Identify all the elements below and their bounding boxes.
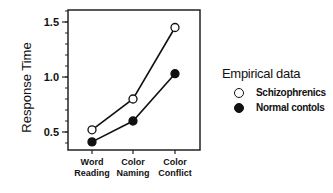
open-circle-marker: [129, 95, 137, 103]
legend: Empirical data Schizophrenics Normal con…: [222, 66, 326, 115]
filled-circle-marker: [171, 70, 179, 78]
x-tick-label: Naming: [116, 168, 149, 178]
y-tick-label: 1.5: [44, 16, 59, 28]
legend-title: Empirical data: [222, 66, 326, 81]
filled-circle-marker: [88, 138, 96, 146]
filled-circle-marker: [129, 117, 137, 125]
legend-item-normal-controls: Normal contols: [222, 100, 326, 115]
open-circle-icon: [234, 88, 244, 98]
x-tick-label: Word: [81, 157, 104, 167]
x-tick-label: Conflict: [158, 168, 192, 178]
legend-label: Schizophrenics: [256, 87, 326, 98]
series-line: [92, 74, 175, 142]
y-tick-label: 1.0: [44, 71, 59, 83]
legend-label: Normal contols: [256, 102, 325, 113]
legend-item-schizophrenics: Schizophrenics: [222, 85, 326, 100]
x-tick-label: Color: [121, 157, 145, 167]
open-circle-marker: [171, 24, 179, 32]
x-tick-label: Color: [163, 157, 187, 167]
x-tick-label: Reading: [74, 168, 110, 178]
y-axis-label: Response Time: [19, 38, 34, 138]
filled-circle-icon: [234, 103, 244, 113]
series-line: [92, 28, 175, 130]
y-tick-label: 0.5: [44, 126, 59, 138]
open-circle-marker: [88, 126, 96, 134]
